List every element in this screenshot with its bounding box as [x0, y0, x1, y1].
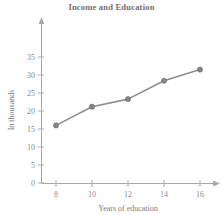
- y-axis-tick-labels: 0 5 10 15 20 25 30 35: [27, 53, 35, 188]
- x-axis-tick-labels: 8 10 12 14 16: [54, 190, 204, 199]
- x-axis: [42, 181, 221, 187]
- data-point-marker: [53, 123, 58, 128]
- data-point-marker: [197, 67, 202, 72]
- x-tick-label-14: 14: [160, 190, 168, 199]
- x-axis-arrow-icon: [213, 181, 220, 187]
- y-tick-label-20: 20: [27, 107, 35, 116]
- y-axis: [39, 17, 45, 183]
- y-tick-label-10: 10: [27, 143, 35, 152]
- x-axis-title: Years of education: [98, 204, 158, 213]
- data-point-marker: [125, 97, 130, 102]
- line-chart-plot: 0 5 10 15 20 25 30 35 8 10 12 14 16 Year…: [0, 0, 223, 215]
- y-tick-label-5: 5: [31, 161, 35, 170]
- x-tick-label-8: 8: [54, 190, 58, 199]
- chart-figure: Income and Education 0 5 10 15 20 25: [0, 0, 223, 215]
- data-point-marker: [89, 104, 94, 109]
- x-tick-label-12: 12: [124, 190, 132, 199]
- y-tick-label-25: 25: [27, 89, 35, 98]
- y-tick-label-15: 15: [27, 125, 35, 134]
- y-axis-title: In thousands: [7, 90, 16, 131]
- x-tick-label-16: 16: [196, 190, 204, 199]
- y-tick-label-35: 35: [27, 53, 35, 62]
- data-point-marker: [161, 78, 166, 83]
- y-axis-arrow-icon: [39, 17, 45, 24]
- x-tick-label-10: 10: [88, 190, 96, 199]
- y-tick-label-0: 0: [31, 179, 35, 188]
- y-tick-label-30: 30: [27, 71, 35, 80]
